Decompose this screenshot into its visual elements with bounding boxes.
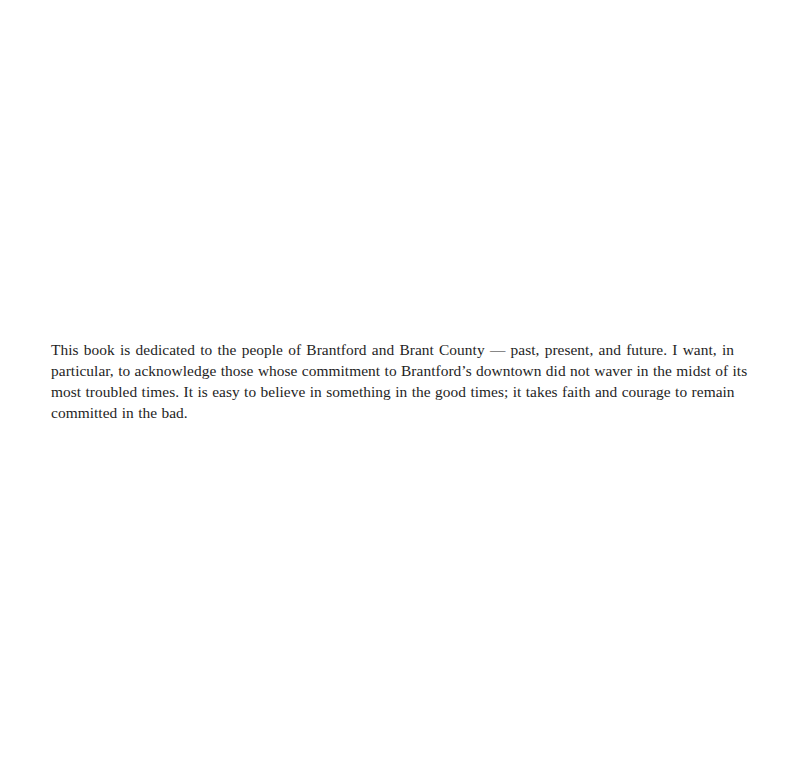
book-page: This book is dedicated to the people of … [0, 0, 790, 769]
dedication-line-1: This book is dedicated to the people of … [51, 339, 734, 360]
dedication-line-4: committed in the bad. [51, 402, 734, 423]
dedication-paragraph: This book is dedicated to the people of … [51, 339, 734, 423]
dedication-line-2: particular, to acknowledge those whose c… [51, 360, 734, 381]
dedication-line-3: most troubled times. It is easy to belie… [51, 381, 734, 402]
